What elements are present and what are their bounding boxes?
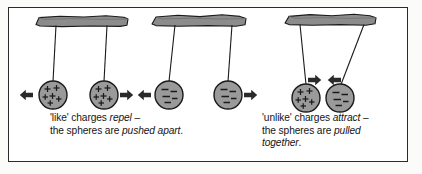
caption-line2-emphasis: pushed apart bbox=[122, 125, 180, 136]
caption-like-charges-line1: 'like' charges repel – bbox=[50, 112, 183, 125]
caption-line1-emphasis: repel bbox=[110, 112, 132, 123]
caption-unlike-charges: 'unlike' charges attract – the spheres a… bbox=[262, 112, 369, 150]
caption-unlike-charges-line3: together. bbox=[262, 137, 369, 150]
caption-line1-emphasis: attract bbox=[333, 112, 361, 123]
physics-diagram-figure: 'like' charges repel – the spheres are p… bbox=[0, 0, 422, 174]
caption-line1-text-b: – bbox=[132, 112, 140, 123]
caption-line3-emphasis: together bbox=[262, 137, 299, 148]
caption-unlike-charges-line2: the spheres are pulled bbox=[262, 125, 369, 138]
caption-like-charges-line2: the spheres are pushed apart. bbox=[50, 125, 183, 138]
caption-line1-text-a: 'unlike' charges bbox=[262, 112, 333, 123]
caption-line3-text-b: . bbox=[299, 137, 302, 148]
caption-line1-text-a: 'like' charges bbox=[50, 112, 110, 123]
caption-line2-text-a: the spheres are bbox=[50, 125, 122, 136]
caption-line2-text-b: . bbox=[180, 125, 183, 136]
caption-line1-text-b: – bbox=[360, 112, 368, 123]
caption-line2-emphasis: pulled bbox=[334, 125, 361, 136]
caption-unlike-charges-line1: 'unlike' charges attract – bbox=[262, 112, 369, 125]
caption-line2-text-a: the spheres are bbox=[262, 125, 334, 136]
caption-like-charges: 'like' charges repel – the spheres are p… bbox=[50, 112, 183, 137]
